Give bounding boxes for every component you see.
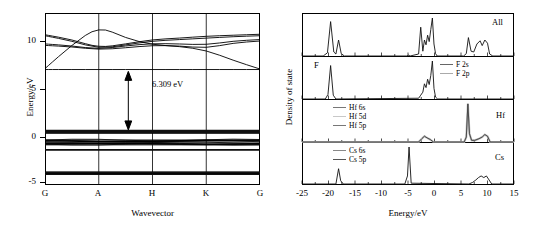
- band-xticklabel-G2: G: [254, 188, 266, 198]
- dos-xticklabel-5: 5: [454, 188, 468, 198]
- band-yaxis-title: Energy/eV: [25, 47, 35, 147]
- band-xticklabel-K: K: [200, 188, 212, 198]
- dos-xticklabel-neg5: -5: [399, 188, 417, 198]
- band-xaxis-title: Wavevector: [45, 208, 260, 218]
- dos-xticklabel-neg10: -10: [371, 188, 391, 198]
- band-ytick-0: [40, 137, 45, 138]
- dos-yaxis-title: Density of state: [284, 42, 294, 152]
- band-ytick-neg5: [40, 182, 45, 183]
- legend-swatch-cs-5p: [333, 159, 346, 160]
- band-xticklabel-H: H: [146, 188, 158, 198]
- legend-label-hf-6s: Hf 6s: [349, 103, 365, 112]
- dos-subpanel-tag-hf: Hf: [496, 110, 505, 120]
- legend-item-cs-6s: Cs 6s: [333, 146, 366, 155]
- dos-subpanel-tag-f: F: [314, 60, 319, 70]
- band-structure-curves: [45, 13, 260, 185]
- legend-swatch-cs-6s: [333, 150, 346, 151]
- legend-item-f-2p: F 2p: [440, 69, 470, 78]
- dos-subpanel-tag-cs: Cs: [495, 152, 504, 162]
- legend-swatch-hf-6s: [333, 107, 346, 108]
- band-gap-annotation: 6.309 eV: [152, 79, 183, 89]
- band-ytick-5: [40, 89, 45, 90]
- legend-label-cs-6s: Cs 6s: [349, 146, 365, 155]
- legend-label-f-2s: F 2s: [456, 60, 469, 69]
- band-yticklabel-neg5: -5: [14, 176, 36, 186]
- dos-xticklabel-0: 0: [427, 188, 441, 198]
- legend-item-f-2s: F 2s: [440, 60, 470, 69]
- legend-label-hf-5p: Hf 5p: [349, 121, 366, 130]
- band-yticklabel-10: 10: [18, 35, 36, 45]
- dos-xticklabel-15: 15: [505, 188, 523, 198]
- dos-subpanel-tag-all: All: [492, 17, 503, 27]
- band-xticklabel-G1: G: [39, 188, 51, 198]
- figure-root: 10 5 0 -5 G A H K G Wavevector Energy/eV…: [0, 0, 539, 233]
- legend-swatch-hf-5d: [333, 116, 346, 117]
- legend-item-cs-5p: Cs 5p: [333, 155, 366, 164]
- legend-swatch-f-2p: [440, 73, 453, 74]
- legend-label-cs-5p: Cs 5p: [349, 155, 366, 164]
- legend-label-f-2p: F 2p: [456, 69, 470, 78]
- legend-item-hf-5p: Hf 5p: [333, 121, 366, 130]
- dos-xaxis-title: Energy/eV: [302, 208, 514, 218]
- dos-xticklabel-10: 10: [478, 188, 496, 198]
- dos-xticklabel-neg15: -15: [345, 188, 365, 198]
- dos-legend-cs: Cs 6s Cs 5p: [333, 146, 366, 164]
- dos-xticklabel-neg20: -20: [318, 188, 338, 198]
- legend-swatch-hf-5p: [333, 125, 346, 126]
- dos-xticklabel-neg25: -25: [292, 188, 312, 198]
- legend-label-hf-5d: Hf 5d: [349, 112, 366, 121]
- legend-item-hf-5d: Hf 5d: [333, 112, 366, 121]
- dos-legend-f: F 2s F 2p: [440, 60, 470, 78]
- legend-item-hf-6s: Hf 6s: [333, 103, 366, 112]
- legend-swatch-f-2s: [440, 64, 453, 65]
- band-ytick-10: [40, 41, 45, 42]
- dos-legend-hf: Hf 6s Hf 5d Hf 5p: [333, 103, 366, 130]
- band-xticklabel-A: A: [92, 188, 104, 198]
